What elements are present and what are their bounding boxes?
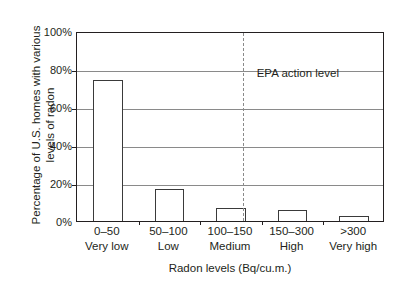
y-axis-tick-labels: 0%20%40%60%80%100% [28,0,72,285]
x-axis-tick-label: >300Very high [322,224,384,256]
x-axis-tick-label: 100–150Medium [199,224,261,256]
x-axis-title: Radon levels (Bq/cu.m.) [76,262,384,274]
x-axis-tick-label: 0–50Very low [76,224,138,256]
y-axis-tick-label: 100% [32,26,72,38]
x-axis-tick-labels: 0–50Very low50–100Low100–150Medium150–30… [76,224,384,256]
y-axis-tick-label: 0% [32,216,72,228]
bar [93,80,123,221]
y-axis-tick-label: 20% [32,178,72,190]
x-axis-tick-label: 50–100Low [138,224,200,256]
bar [278,210,308,221]
x-axis-tick-category: Low [138,239,200,254]
epa-action-level-dashed-line [243,33,244,221]
x-axis-tick-category: Very high [322,239,384,254]
x-axis-tick-label: 150–300High [261,224,323,256]
y-axis-tick-label: 80% [32,64,72,76]
x-axis-tick-range: 100–150 [208,225,253,237]
y-axis-tick-mark [72,109,77,110]
gridline [77,109,383,110]
epa-action-level-label: EPA action level [257,67,339,79]
gridline [77,185,383,186]
x-axis-tick-category: Very low [76,239,138,254]
gridline [77,147,383,148]
radon-bar-chart-figure: Percentage of U.S. homes with various le… [0,0,408,285]
bar [339,216,369,221]
y-axis-tick-mark [72,71,77,72]
x-axis-tick-category: High [261,239,323,254]
y-axis-tick-label: 60% [32,102,72,114]
bar [155,189,185,221]
y-axis-tick-label: 40% [32,140,72,152]
plot-area: EPA action level [76,32,384,222]
x-axis-tick-range: 150–300 [269,225,314,237]
y-axis-tick-mark [72,147,77,148]
x-axis-tick-range: 50–100 [149,225,187,237]
bar [216,208,246,221]
y-axis-tick-mark [72,185,77,186]
x-axis-tick-range: 0–50 [94,225,120,237]
x-axis-tick-category: Medium [199,239,261,254]
x-axis-tick-range: >300 [340,225,366,237]
